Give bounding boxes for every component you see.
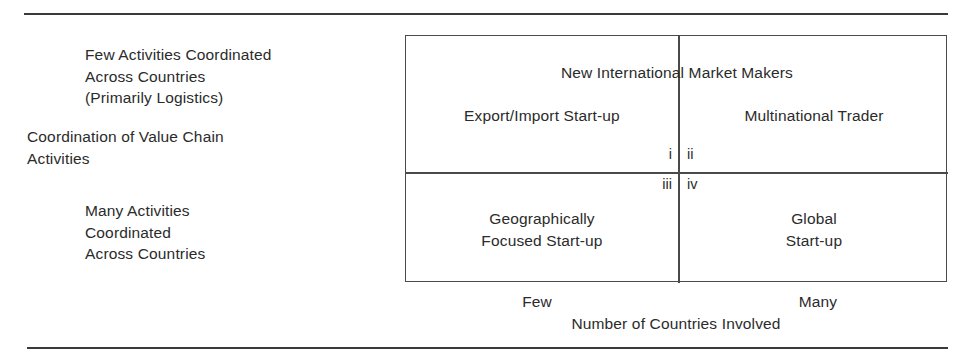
- figure-bottom-rule: [27, 347, 948, 349]
- matrix-horizontal-divider: [406, 172, 948, 174]
- matrix-cell-label-i: Export/Import Start-up: [406, 105, 678, 127]
- y-axis-high-label: Few Activities Coordinated Across Countr…: [85, 44, 272, 109]
- matrix-quadrant-numeral-i: i: [628, 146, 672, 163]
- matrix-quadrant-numeral-iv: iv: [687, 176, 731, 193]
- figure-canvas: Few Activities Coordinated Across Countr…: [0, 0, 973, 363]
- x-axis-title: Number of Countries Involved: [405, 313, 947, 334]
- matrix-cell-label-ii: Multinational Trader: [680, 105, 948, 127]
- matrix-cell-label-iii: Geographically Focused Start-up: [406, 208, 678, 251]
- y-axis-low-label: Many Activities Coordinated Across Count…: [85, 200, 205, 265]
- matrix-quadrant-numeral-ii: ii: [687, 146, 731, 163]
- y-axis-title: Coordination of Value Chain Activities: [27, 126, 224, 169]
- matrix-cell-label-iv: Global Start-up: [680, 208, 948, 251]
- matrix-quadrant-numeral-iii: iii: [628, 176, 672, 193]
- two-by-two-matrix: New International Market Makers Export/I…: [405, 35, 947, 282]
- figure-top-rule: [24, 13, 948, 15]
- x-axis-tick-low: Few: [477, 291, 597, 312]
- x-axis-tick-high: Many: [758, 291, 878, 312]
- matrix-banner-label: New International Market Makers: [406, 62, 948, 83]
